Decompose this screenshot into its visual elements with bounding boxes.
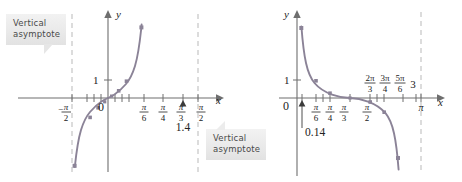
svg-text:π: π <box>142 102 147 112</box>
svg-text:4: 4 <box>383 84 388 94</box>
cotangent-y-tick-label-one: 1 <box>284 74 290 86</box>
tangent-estimate-label: 1.4 <box>176 121 191 133</box>
svg-text:2: 2 <box>64 113 69 123</box>
svg-text:π: π <box>342 102 347 112</box>
cotangent-tick-label-3pi-over-4: 3π 4 <box>380 73 391 94</box>
cotangent-x-axis-label: x <box>437 96 443 108</box>
tangent-data-markers-upper <box>110 25 143 97</box>
svg-text:5π: 5π <box>395 73 405 83</box>
svg-text:4: 4 <box>328 113 333 123</box>
svg-text:3: 3 <box>342 113 347 123</box>
svg-text:π: π <box>199 102 204 112</box>
tangent-curve-upper-branch <box>108 25 142 99</box>
figure-root: y x 0 1 − π 2 π 6 π 4 <box>0 0 462 182</box>
cotangent-tick-label-pi: π <box>418 102 424 113</box>
svg-text:4: 4 <box>161 113 166 123</box>
tangent-tick-label-neg-half-pi: − π 2 <box>58 102 71 123</box>
cotangent-tick-label-three: 3 <box>410 78 416 90</box>
cotangent-y-axis-label: y <box>283 8 289 20</box>
svg-text:π: π <box>365 102 370 112</box>
cotangent-estimate-arrow-icon <box>299 100 306 107</box>
svg-text:π: π <box>64 102 69 112</box>
tangent-y-tick-label-one: 1 <box>93 74 99 86</box>
svg-text:6: 6 <box>314 113 319 123</box>
cotangent-tick-label-pi-over-4: π 4 <box>326 102 335 123</box>
cotangent-tick-label-pi-over-3: π 3 <box>340 102 349 123</box>
tangent-y-axis-label: y <box>115 8 121 20</box>
callout-left-line2: asymptote <box>13 29 60 40</box>
cotangent-tick-label-pi-over-2: π 2 <box>363 102 372 123</box>
svg-text:π: π <box>314 102 319 112</box>
svg-text:2π: 2π <box>365 73 375 83</box>
svg-text:2: 2 <box>365 113 370 123</box>
svg-text:−: − <box>58 104 63 114</box>
callout-right-line1: Vertical <box>213 133 246 143</box>
svg-text:π: π <box>161 102 166 112</box>
tangent-tick-label-pi-over-4: π 4 <box>159 102 168 123</box>
svg-text:π: π <box>328 102 333 112</box>
svg-text:6: 6 <box>398 84 403 94</box>
svg-text:π: π <box>179 102 184 112</box>
cotangent-origin-label: 0 <box>283 99 289 113</box>
tangent-tick-label-pi-over-2: π 2 <box>197 102 206 123</box>
svg-text:3: 3 <box>368 84 373 94</box>
cotangent-tick-label-2pi-over-3: 2π 3 <box>365 73 376 94</box>
svg-text:3π: 3π <box>380 73 390 83</box>
svg-text:6: 6 <box>142 113 147 123</box>
callout-vertical-asymptote-left: Vertical asymptote <box>6 14 66 45</box>
cotangent-tick-label-5pi-over-6: 5π 6 <box>395 73 406 94</box>
tangent-x-axis-label: x <box>215 94 221 106</box>
cotangent-tick-label-pi-over-6: π 6 <box>312 102 321 123</box>
y-axis-arrow-icon <box>104 10 111 18</box>
tangent-tick-label-pi-over-6: π 6 <box>140 102 149 123</box>
callout-right-line2: asymptote <box>213 144 260 155</box>
y-axis-arrow-icon <box>293 10 300 18</box>
cotangent-estimate-label: 0.14 <box>305 126 325 138</box>
callout-left-line1: Vertical <box>13 18 46 28</box>
svg-text:2: 2 <box>199 113 204 123</box>
tangent-origin-label: 0 <box>98 100 104 114</box>
callout-vertical-asymptote-right: Vertical asymptote <box>206 129 266 160</box>
